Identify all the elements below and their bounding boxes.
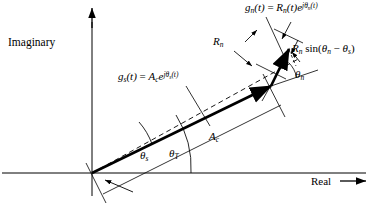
- gs-eq: =: [137, 70, 149, 82]
- theta-T-arc: [176, 115, 191, 173]
- rn-R: R: [213, 35, 220, 47]
- label-rn-sin-term: Rn sin(θn − θs): [292, 43, 355, 55]
- gn-exp-arg: (t): [311, 1, 318, 10]
- ac-A: A: [209, 130, 216, 142]
- gn-R-arg: (t): [287, 1, 297, 13]
- phasor-diagram-figure: Imaginary Real gn(t) = Rn(t)ejθn(t) gs(t…: [0, 0, 372, 208]
- label-ac-amplitude: Ac: [209, 131, 219, 143]
- gs-leader-group: [186, 86, 210, 126]
- gs-arg: (t): [126, 70, 136, 82]
- gn-arg: (t): [254, 1, 264, 13]
- rn-leader-lower: [234, 51, 252, 66]
- label-theta-n: θn: [295, 69, 304, 81]
- label-theta-s: θs: [140, 150, 148, 162]
- rn-tip-tick: [274, 29, 303, 43]
- resultant-phasor-bold: [92, 86, 271, 173]
- rn-leader-upper: [245, 30, 257, 42]
- theta-T-sub: T: [174, 152, 178, 161]
- equation-gn: gn(t) = Rn(t)ejθn(t): [245, 2, 318, 14]
- rnsin-minus: −: [331, 42, 343, 54]
- resultant-vector-line: [92, 86, 271, 173]
- ac-sub: c: [216, 135, 219, 144]
- theta-s-arc: [139, 122, 152, 144]
- ac-dimension-line: [103, 105, 281, 194]
- axis-label-real: Real: [311, 176, 331, 187]
- rnsin-R: R: [292, 42, 299, 54]
- equation-gs: gs(t) = Acejθs(t): [118, 71, 178, 83]
- rnsin-fn: sin(: [302, 42, 321, 54]
- origin-angle-arcs: [139, 115, 191, 173]
- gs-exp-arg: (t): [171, 70, 178, 79]
- theta-s-sub: s: [145, 154, 148, 163]
- label-theta-T: θT: [169, 148, 179, 160]
- label-rn-magnitude: Rn: [213, 36, 223, 48]
- axis-label-imaginary: Imaginary: [8, 37, 55, 49]
- gs-leader-line: [186, 86, 210, 126]
- rnsin-close: ): [351, 42, 355, 54]
- gn-leader-line: [266, 17, 284, 56]
- ac-left-arrow: [105, 180, 133, 192]
- gn-eq: =: [265, 1, 277, 13]
- theta-n-sub: n: [300, 73, 304, 82]
- rn-sub: n: [220, 40, 224, 49]
- axes-group: [2, 8, 366, 196]
